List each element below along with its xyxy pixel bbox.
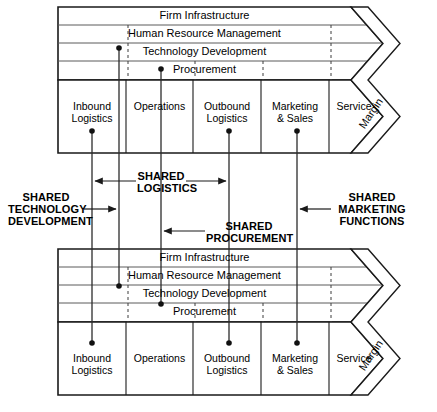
annotation-shared-marketing-functions-line2: MARKETING bbox=[334, 203, 410, 215]
annotation-shared-marketing-functions-line3: FUNCTIONS bbox=[334, 215, 410, 227]
annotation-shared-marketing-functions: SHARED MARKETING FUNCTIONS bbox=[334, 191, 410, 227]
annotation-shared-marketing-functions-line1: SHARED bbox=[334, 191, 410, 203]
upper-primary-outbound-logistics: Outbound Logistics bbox=[193, 100, 261, 124]
lower-support-label-firm-infrastructure: Firm Infrastructure bbox=[58, 252, 351, 263]
annotation-shared-technology-development-line1: SHARED bbox=[8, 191, 84, 203]
annotation-shared-technology-development-line3: DEVELOPMENT bbox=[8, 215, 84, 227]
upper-primary-inbound-logistics-line1: Inbound bbox=[58, 100, 126, 112]
node-marketing-bottom bbox=[294, 340, 300, 346]
annotation-shared-technology-development: SHARED TECHNOLOGY DEVELOPMENT bbox=[8, 191, 84, 227]
annotation-shared-procurement-line2: PROCUREMENT bbox=[206, 232, 292, 244]
lower-primary-operations-line1: Operations bbox=[126, 352, 193, 364]
lower-primary-marketing-sales-line1: Marketing bbox=[261, 352, 329, 364]
annotation-shared-logistics: SHARED LOGISTICS bbox=[137, 170, 185, 194]
annotation-shared-technology-development-line2: TECHNOLOGY bbox=[8, 203, 84, 215]
annotation-shared-procurement-line1: SHARED bbox=[206, 220, 292, 232]
value-chain-diagram: Firm Infrastructure Human Resource Manag… bbox=[0, 0, 437, 412]
lower-primary-outbound-logistics-line1: Outbound bbox=[193, 352, 261, 364]
lower-primary-outbound-logistics: Outbound Logistics bbox=[193, 352, 261, 376]
upper-primary-operations: Operations bbox=[126, 100, 193, 112]
lower-primary-inbound-logistics: Inbound Logistics bbox=[58, 352, 126, 376]
upper-primary-marketing-sales-line1: Marketing bbox=[261, 100, 329, 112]
annotation-shared-logistics-line1: SHARED bbox=[137, 170, 185, 182]
upper-primary-outbound-logistics-line1: Outbound bbox=[193, 100, 261, 112]
node-inbound-top bbox=[89, 128, 95, 134]
upper-support-label-procurement: Procurement bbox=[58, 64, 351, 75]
upper-primary-operations-line1: Operations bbox=[126, 100, 193, 112]
node-inbound-bottom bbox=[89, 340, 95, 346]
upper-primary-marketing-sales: Marketing & Sales bbox=[261, 100, 329, 124]
lower-support-label-procurement: Procurement bbox=[58, 306, 351, 317]
lower-support-label-technology-development: Technology Development bbox=[58, 288, 351, 299]
node-outbound-bottom bbox=[226, 340, 232, 346]
upper-primary-inbound-logistics: Inbound Logistics bbox=[58, 100, 126, 124]
lower-primary-outbound-logistics-line2: Logistics bbox=[193, 364, 261, 376]
upper-support-label-firm-infrastructure: Firm Infrastructure bbox=[58, 10, 351, 21]
lower-primary-marketing-sales: Marketing & Sales bbox=[261, 352, 329, 376]
upper-support-label-technology-development: Technology Development bbox=[58, 46, 351, 57]
annotation-shared-logistics-line2: LOGISTICS bbox=[137, 182, 185, 194]
lower-primary-inbound-logistics-line1: Inbound bbox=[58, 352, 126, 364]
lower-support-label-human-resource-management: Human Resource Management bbox=[58, 270, 351, 281]
annotation-shared-procurement: SHARED PROCUREMENT bbox=[206, 220, 292, 244]
upper-support-label-human-resource-management: Human Resource Management bbox=[58, 28, 351, 39]
node-marketing-top bbox=[294, 128, 300, 134]
upper-primary-marketing-sales-line2: & Sales bbox=[261, 112, 329, 124]
upper-primary-inbound-logistics-line2: Logistics bbox=[58, 112, 126, 124]
lower-primary-operations: Operations bbox=[126, 352, 193, 364]
lower-primary-marketing-sales-line2: & Sales bbox=[261, 364, 329, 376]
upper-primary-outbound-logistics-line2: Logistics bbox=[193, 112, 261, 124]
lower-primary-inbound-logistics-line2: Logistics bbox=[58, 364, 126, 376]
node-outbound-top bbox=[226, 128, 232, 134]
